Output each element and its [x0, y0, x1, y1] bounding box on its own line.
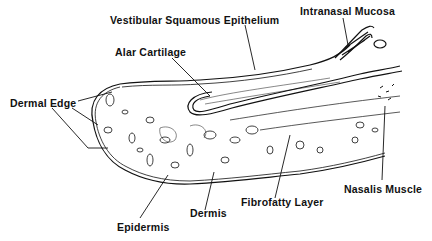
alar-cartilage-contour [193, 66, 400, 112]
label-nasalis-muscle: Nasalis Muscle [344, 183, 422, 195]
label-dermis: Dermis [190, 207, 227, 219]
label-fibrofatty-layer: Fibrofatty Layer [241, 196, 324, 208]
label-dermal-edge: Dermal Edge [10, 97, 76, 109]
label-vestibular-squamous-epithelium: Vestibular Squamous Epithelium [110, 14, 279, 26]
leader-dermal-edge-2 [72, 108, 98, 125]
label-intranasal-mucosa: Intranasal Mucosa [300, 5, 395, 17]
epidermis-contour [92, 84, 385, 184]
leader-vestibular-epithelium [245, 25, 255, 70]
leader-dermis [205, 172, 214, 210]
leader-epidermis [140, 175, 168, 218]
leader-dermal-edge-3 [52, 108, 108, 148]
leader-nasalis-muscle [382, 106, 385, 180]
leader-intranasal-mucosa [343, 18, 348, 45]
nasal-ala-cross-section-illustration [0, 0, 432, 241]
leader-alar-cartilage [172, 58, 210, 96]
leader-fibrofatty-layer [275, 135, 290, 198]
label-alar-cartilage: Alar Cartilage [115, 46, 186, 58]
label-epidermis: Epidermis [117, 221, 170, 233]
